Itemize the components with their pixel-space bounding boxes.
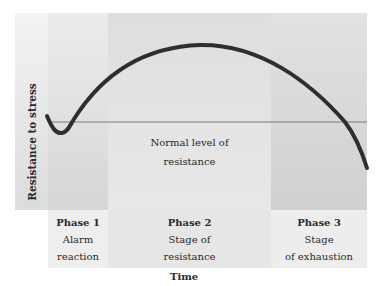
phase1-label: Phase 1 Alarm reaction <box>48 214 108 265</box>
baseline-label-line2: resistance <box>108 152 271 171</box>
baseline-label-line1: Normal level of <box>108 133 271 152</box>
y-axis-label: Resistance to stress <box>26 83 38 201</box>
phase1-title: Phase 1 <box>48 214 108 231</box>
phase3-label: Phase 3 Stage of exhaustion <box>271 214 367 265</box>
phase2-line1: Stage of <box>108 231 271 248</box>
phase2-line2: resistance <box>108 248 271 265</box>
x-axis-label: Time <box>170 271 198 282</box>
phase1-line1: Alarm <box>48 231 108 248</box>
phase1-line2: reaction <box>48 248 108 265</box>
baseline-label: Normal level of resistance <box>108 133 271 171</box>
phase3-line1: Stage <box>271 231 367 248</box>
phase3-title: Phase 3 <box>271 214 367 231</box>
phase2-title: Phase 2 <box>108 214 271 231</box>
phase2-label: Phase 2 Stage of resistance <box>108 214 271 265</box>
phase3-line2: of exhaustion <box>271 248 367 265</box>
